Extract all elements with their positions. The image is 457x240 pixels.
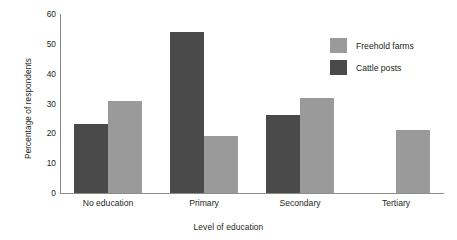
bar-chart: Percentage of respondents 0102030405060 …	[0, 0, 457, 240]
x-axis-tick-label: Primary	[189, 198, 219, 208]
legend-swatch-icon	[330, 38, 347, 53]
x-axis-tick-label: Tertiary	[382, 198, 410, 208]
x-axis-tick-label: No education	[83, 198, 134, 208]
x-axis-tick-label: Secondary	[279, 198, 320, 208]
x-axis-title: Level of education	[0, 222, 457, 232]
legend-item-label: Freehold farms	[356, 41, 414, 51]
legend: Freehold farmsCattle posts	[330, 36, 414, 80]
legend-swatch-icon	[330, 60, 347, 75]
legend-item-label: Cattle posts	[356, 63, 401, 73]
legend-item: Cattle posts	[330, 58, 414, 77]
legend-item: Freehold farms	[330, 36, 414, 55]
